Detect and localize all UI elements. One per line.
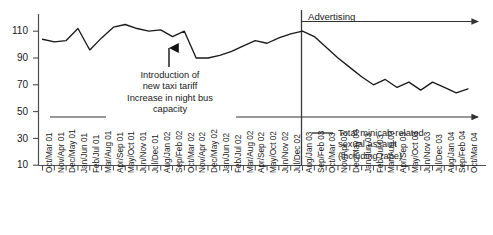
annotation-line-4: capacity	[108, 104, 232, 115]
x-tick-label: Jul/Dec 03	[436, 134, 444, 173]
x-tick-label: Apr/Sep 01	[117, 132, 125, 173]
annotation-line-2: new taxi tariff	[108, 81, 232, 92]
x-tick-label: Mar/Aug 02	[247, 131, 255, 173]
x-tick-label: Feb/Jul 01	[93, 135, 101, 173]
x-tick-label: Aug/Jan 02	[164, 132, 172, 173]
x-tick-label: Dec/May 01	[69, 129, 77, 173]
x-tick-label: Dec/May 02	[211, 129, 219, 173]
legend-line-2: sexual assault	[338, 139, 424, 150]
y-tick-label: 70	[2, 80, 28, 90]
y-tick-marks	[33, 31, 39, 165]
x-tick-label: Oct/Mar 02	[188, 133, 196, 174]
x-tick-label: Apr/Sep 02	[258, 132, 266, 173]
chart-container: 110 90 70 50 30 10 Oct/Mar 01Nov/Apr 01D…	[0, 0, 493, 235]
x-tick-label: Nov/Apr 02	[199, 132, 207, 173]
y-tick-label: 90	[2, 53, 28, 63]
x-tick-label: Mar/Aug 01	[105, 131, 113, 173]
x-tick-label: Jun/Nov 02	[282, 132, 290, 173]
x-tick-label: May/Oct 01	[128, 131, 136, 173]
x-tick-label: Jul/Dec 02	[294, 134, 302, 173]
chart-legend: Total minicab-related sexual assault (in…	[338, 128, 424, 162]
x-tick-label: Sep/Feb 02	[176, 131, 184, 173]
chart-plot-area	[0, 0, 493, 235]
y-tick-label: 110	[2, 26, 28, 36]
x-tick-label: Jun/Nov 01	[140, 132, 148, 173]
taxi-tariff-annotation: Introduction of new taxi tariff Increase…	[108, 70, 232, 116]
y-tick-label: 10	[2, 160, 28, 170]
y-tick-label: 30	[2, 134, 28, 144]
x-tick-label: Jun/Nov 03	[424, 132, 432, 173]
x-tick-label: Jan/Jun 01	[81, 133, 89, 173]
x-tick-label: Aug/Jan 03	[306, 132, 314, 173]
annotation-line-3: Increase in night bus	[108, 93, 232, 104]
x-tick-label: Sep/Feb 03	[318, 131, 326, 173]
series-line-minicab-sexual-assault	[43, 25, 469, 93]
x-tick-label: Oct/Mar 04	[471, 133, 479, 174]
x-tick-label: Jul/Dec 01	[152, 134, 160, 173]
annotation-line-1: Introduction of	[108, 70, 232, 81]
x-tick-label: May/Oct 02	[270, 131, 278, 173]
x-tick-label: Jan/Jun 02	[223, 133, 231, 173]
x-tick-label: Oct/Mar 01	[46, 133, 54, 174]
x-tick-label: Nov/Apr 01	[58, 132, 66, 173]
y-tick-label: 50	[2, 107, 28, 117]
x-tick-label: Sep/Feb 04	[459, 131, 467, 173]
x-tick-label: Oct/Mar 03	[329, 133, 337, 174]
legend-line-1: Total minicab-related	[338, 128, 424, 139]
advertising-label: Advertising	[308, 11, 355, 22]
legend-line-3: (including rape)	[338, 151, 424, 162]
x-tick-label: Feb/Jul 02	[235, 135, 243, 173]
x-tick-label: Aug/Jan 04	[448, 132, 456, 173]
